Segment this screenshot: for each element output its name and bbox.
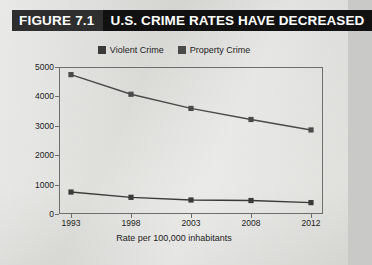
y-axis-tick-label: 4000 [35, 91, 54, 101]
y-axis-tick-label: 2000 [35, 150, 54, 160]
data-point-marker [128, 195, 133, 200]
series-line-property-crime [71, 75, 311, 130]
x-axis-labels: 19931998200320082012 [0, 218, 348, 232]
x-axis-tick-mark [311, 214, 312, 218]
series-line-violent-crime [71, 192, 311, 203]
x-axis-tick-label: 2003 [182, 218, 201, 228]
data-point-marker [248, 117, 253, 122]
data-point-marker [248, 198, 253, 203]
y-axis-tick-label: 1000 [35, 180, 54, 190]
plot-frame [59, 67, 323, 214]
data-point-marker [68, 189, 73, 194]
legend-label: Violent Crime [110, 45, 164, 55]
x-axis-tick-label: 2012 [302, 218, 321, 228]
x-axis-tick-label: 2008 [242, 218, 261, 228]
figure-number-tag: FIGURE 7.1 [12, 10, 103, 31]
legend-item: Violent Crime [98, 45, 164, 55]
legend-label: Property Crime [190, 45, 251, 55]
legend-item: Property Crime [178, 45, 251, 55]
y-axis-tick-label: 0 [49, 209, 54, 219]
figure-title-bar: FIGURE 7.1 U.S. CRIME RATES HAVE DECREAS… [12, 10, 336, 31]
y-axis-labels: 010002000300040005000 [16, 60, 54, 220]
x-axis-tick-mark [131, 214, 132, 218]
y-axis-tick-label: 3000 [35, 121, 54, 131]
data-point-marker [128, 92, 133, 97]
figure-title: U.S. CRIME RATES HAVE DECREASED [103, 10, 372, 31]
y-axis-tick-mark [55, 214, 59, 215]
legend-swatch-icon [178, 46, 186, 54]
data-point-marker [68, 72, 73, 77]
x-axis-tick-mark [251, 214, 252, 218]
y-axis-tick-mark [55, 185, 59, 186]
data-point-marker [308, 200, 313, 205]
y-axis-tick-mark [55, 126, 59, 127]
x-axis-tick-label: 1998 [122, 218, 141, 228]
y-axis-tick-mark [55, 67, 59, 68]
data-point-marker [308, 127, 313, 132]
x-axis-tick-label: 1993 [62, 218, 81, 228]
y-axis-tick-mark [55, 96, 59, 97]
x-axis-tick-mark [71, 214, 72, 218]
data-point-marker [188, 197, 193, 202]
x-axis-caption: Rate per 100,000 inhabitants [0, 233, 348, 243]
y-axis-tick-label: 5000 [35, 62, 54, 72]
chart-legend: Violent CrimeProperty Crime [0, 45, 348, 55]
x-axis-tick-mark [191, 214, 192, 218]
data-point-marker [188, 106, 193, 111]
legend-swatch-icon [98, 46, 106, 54]
y-axis-tick-mark [55, 155, 59, 156]
